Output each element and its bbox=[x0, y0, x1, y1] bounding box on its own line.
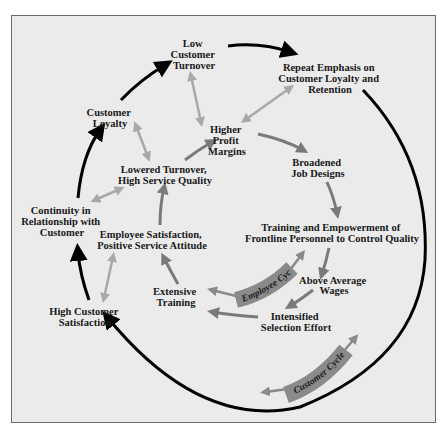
cycle-diagram: Employee Cycle Customer Cycle Low Custom… bbox=[0, 0, 447, 437]
node-employee-satisfaction: Employee Satisfaction, Positive Service … bbox=[97, 229, 207, 251]
node-higher-profit-margins: Higher Profit Margins bbox=[208, 124, 246, 157]
arrow-continuity-to-loyalty bbox=[78, 130, 100, 198]
node-broadened-job-designs: Broadened Job Designs bbox=[291, 157, 344, 179]
node-training-empowerment: Training and Empowerment of Frontline Pe… bbox=[245, 222, 420, 244]
node-customer-loyalty: Customer Loyalty bbox=[87, 107, 134, 129]
node-continuity: Continuity in Relationship with Customer bbox=[21, 205, 103, 238]
arrow-high-satisfaction-to-continuity bbox=[78, 252, 89, 300]
node-low-customer-turnover: Low Customer Turnover bbox=[171, 38, 218, 71]
node-lowered-turnover: Lowered Turnover, High Service Quality bbox=[118, 164, 213, 186]
node-high-customer-satisfaction: High Customer Satisfaction bbox=[49, 306, 121, 328]
node-extensive-training: Extensive Training bbox=[153, 286, 199, 308]
arrow-low-turnover-to-repeat bbox=[228, 45, 290, 52]
node-repeat-emphasis: Repeat Emphasis on Customer Loyalty and … bbox=[278, 62, 381, 95]
node-intensified-selection: Intensified Selection Effort bbox=[261, 311, 332, 333]
arrow-loyalty-to-low-turnover bbox=[121, 65, 165, 100]
